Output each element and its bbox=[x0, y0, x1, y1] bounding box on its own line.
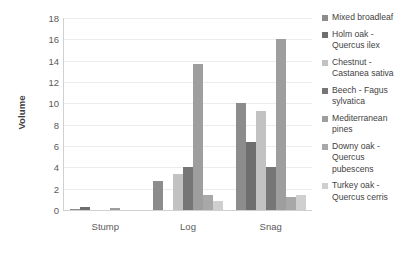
y-axis-title: Volume bbox=[10, 0, 32, 225]
legend-label: Holm oak - Quercus ilex bbox=[332, 29, 380, 52]
legend-swatch-icon bbox=[322, 15, 328, 21]
bar[interactable] bbox=[110, 208, 120, 210]
y-axis-tick-label: 6 bbox=[54, 141, 59, 152]
legend-item[interactable]: Chestnut - Castanea sativa bbox=[322, 57, 418, 80]
bar-series-layer bbox=[64, 18, 312, 210]
legend-label: Mediterranean pines bbox=[332, 113, 387, 136]
y-axis-tick-label: 4 bbox=[54, 162, 59, 173]
bar[interactable] bbox=[256, 111, 266, 210]
legend-item[interactable]: Holm oak - Quercus ilex bbox=[322, 29, 418, 52]
y-axis-title-text: Volume bbox=[16, 95, 27, 129]
legend-label: Beech - Fagus sylvatica bbox=[332, 85, 388, 108]
bar-chart-figure: Volume 024681012141618 StumpLogSnag Mixe… bbox=[0, 0, 420, 265]
legend-item[interactable]: Mediterranean pines bbox=[322, 113, 418, 136]
legend-swatch-icon bbox=[322, 88, 328, 94]
bar[interactable] bbox=[80, 207, 90, 210]
y-axis-tick-label: 8 bbox=[54, 119, 59, 130]
legend-label: Turkey oak - Quercus cerris bbox=[332, 180, 388, 203]
y-axis-tick-label: 10 bbox=[48, 98, 59, 109]
y-axis-tick-label: 0 bbox=[54, 205, 59, 216]
bar[interactable] bbox=[183, 167, 193, 210]
x-axis-tick-label: Snag bbox=[260, 221, 282, 232]
x-axis-tick-label: Log bbox=[180, 221, 196, 232]
bar[interactable] bbox=[203, 195, 213, 210]
bar[interactable] bbox=[173, 174, 183, 210]
bar[interactable] bbox=[193, 64, 203, 210]
legend-swatch-icon bbox=[322, 144, 328, 150]
bar[interactable] bbox=[266, 167, 276, 210]
legend-label: Mixed broadleaf bbox=[332, 12, 393, 24]
legend-item[interactable]: Mixed broadleaf bbox=[322, 12, 418, 24]
bar[interactable] bbox=[70, 209, 80, 210]
y-axis-tick-label: 18 bbox=[48, 13, 59, 24]
legend-item[interactable]: Turkey oak - Quercus cerris bbox=[322, 180, 418, 203]
bar-group bbox=[64, 18, 147, 210]
bar[interactable] bbox=[213, 201, 223, 210]
bar[interactable] bbox=[236, 103, 246, 210]
bar[interactable] bbox=[276, 39, 286, 210]
y-axis-tick-label: 16 bbox=[48, 34, 59, 45]
y-axis-tick-label: 14 bbox=[48, 55, 59, 66]
legend-swatch-icon bbox=[322, 183, 328, 189]
legend-label: Chestnut - Castanea sativa bbox=[332, 57, 394, 80]
y-axis-tick-label: 2 bbox=[54, 183, 59, 194]
legend-label: Downy oak - Quercus pubescens bbox=[332, 141, 380, 176]
bar[interactable] bbox=[246, 142, 256, 210]
legend-swatch-icon bbox=[322, 116, 328, 122]
bar-group bbox=[229, 18, 312, 210]
legend: Mixed broadleafHolm oak - Quercus ilexCh… bbox=[322, 12, 418, 208]
plot-area: 024681012141618 StumpLogSnag bbox=[63, 18, 312, 211]
y-axis-tick-label: 12 bbox=[48, 77, 59, 88]
bar-group bbox=[147, 18, 230, 210]
bar[interactable] bbox=[286, 197, 296, 210]
legend-item[interactable]: Downy oak - Quercus pubescens bbox=[322, 141, 418, 176]
bar[interactable] bbox=[153, 181, 163, 210]
legend-swatch-icon bbox=[322, 60, 328, 66]
legend-item[interactable]: Beech - Fagus sylvatica bbox=[322, 85, 418, 108]
legend-swatch-icon bbox=[322, 32, 328, 38]
x-axis-tick-label: Stump bbox=[92, 221, 119, 232]
bar[interactable] bbox=[296, 195, 306, 210]
